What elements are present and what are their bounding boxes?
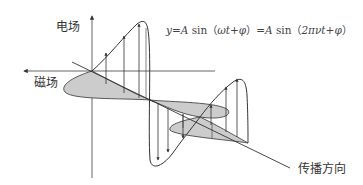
formula-eq: = xyxy=(172,24,181,36)
formula-arg-2: 2πνt+φ xyxy=(301,24,341,36)
formula-close: ）= xyxy=(246,24,265,36)
formula-amp-2: A xyxy=(265,24,273,36)
propagation-axis xyxy=(72,62,290,168)
magnetic-field-label: 磁场 xyxy=(34,73,58,90)
formula-sin-2: sin（ xyxy=(273,24,302,36)
formula-sin: sin（ xyxy=(188,24,217,36)
formula-close-2: ） xyxy=(342,24,352,36)
magnetic-lobe-1 xyxy=(64,71,150,100)
electric-field-label: 电场 xyxy=(56,17,80,34)
wave-equation: y=A sin（ωt+φ）=A sin（2πνt+φ） xyxy=(166,22,352,37)
magnetic-lobe-3 xyxy=(170,117,248,143)
propagation-direction-label: 传播方向 xyxy=(298,159,346,176)
magnetic-lobe-2 xyxy=(150,100,229,118)
formula-arg: ωt+φ xyxy=(217,24,246,36)
